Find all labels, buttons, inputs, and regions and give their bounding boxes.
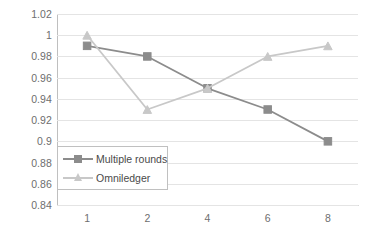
- data-point-square: [83, 42, 91, 50]
- chart-legend: Multiple rounds Omniledger: [57, 146, 168, 190]
- y-tick-label: 0.92: [31, 114, 52, 126]
- x-tick-label: 1: [84, 212, 90, 224]
- data-point-square: [324, 138, 332, 146]
- series-2: [83, 31, 332, 113]
- legend-label: Omniledger: [96, 173, 150, 184]
- y-tick-label: 0.88: [31, 157, 52, 169]
- y-tick-label: 0.94: [31, 93, 52, 105]
- y-tick-label: 1.02: [31, 8, 52, 20]
- legend-key-square-icon: [63, 152, 93, 166]
- x-axis-labels: 12468: [57, 206, 358, 234]
- legend-item-multiple-rounds[interactable]: Multiple rounds: [63, 150, 167, 168]
- y-tick-label: 0.98: [31, 50, 52, 62]
- legend-marker-square: [74, 155, 82, 163]
- data-point-triangle: [83, 31, 92, 39]
- data-point-square: [264, 106, 272, 114]
- series-line: [87, 35, 328, 109]
- y-tick-label: 0.96: [31, 72, 52, 84]
- legend-marker-triangle: [74, 173, 82, 181]
- y-axis-labels: 1.0210.980.960.940.920.90.880.860.84: [0, 0, 52, 237]
- x-tick-label: 8: [325, 212, 331, 224]
- line-chart: 1.0210.980.960.940.920.90.880.860.84 124…: [0, 0, 380, 237]
- y-tick-label: 1: [46, 29, 52, 41]
- y-tick-label: 0.86: [31, 178, 52, 190]
- data-point-square: [144, 53, 152, 61]
- x-tick-label: 2: [144, 212, 150, 224]
- legend-item-omniledger[interactable]: Omniledger: [63, 169, 150, 187]
- x-tick-label: 4: [205, 212, 211, 224]
- y-tick-label: 0.9: [37, 135, 52, 147]
- series-1: [83, 42, 331, 145]
- series-line: [87, 46, 328, 142]
- y-tick-label: 0.84: [31, 199, 52, 211]
- x-tick-label: 6: [265, 212, 271, 224]
- legend-key-triangle-icon: [63, 171, 93, 185]
- legend-label: Multiple rounds: [96, 154, 167, 165]
